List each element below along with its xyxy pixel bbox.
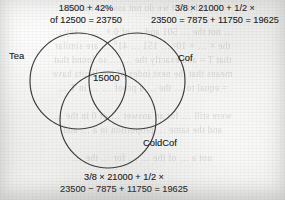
bleed-line: the × … × 10² … 151 … 41° … are similar: [0, 40, 285, 53]
bleed-line: means that the next index of our limits …: [0, 68, 285, 81]
scanned-page: Actual point we do not assume that the ……: [0, 0, 285, 200]
venn-center-value: 15000: [93, 72, 120, 83]
bleed-line: = equal to … the … a proof … … in T …: [0, 82, 285, 95]
bleed-line: not a … of the … … for … the …: [0, 152, 285, 165]
bleed-line: were still … for an answer … of 0 in the…: [0, 110, 285, 123]
annotation-top-left-line-2: of 12500 = 23750: [34, 15, 138, 27]
venn-diagram: [0, 0, 285, 200]
annotation-bottom: 3/8 × 21000 + 1/2 × 23500 − 7875 + 11750…: [18, 172, 230, 195]
bleed-through-text: Actual point we do not assume that the ……: [0, 0, 285, 200]
venn-svg: [0, 0, 285, 200]
annotation-top-left: 18500 + 42% of 12500 = 23750: [34, 3, 138, 26]
bleed-line: … not the … 501 and … of 0 × … … say …: [0, 26, 285, 39]
paper-texture: [0, 0, 285, 200]
bleed-line: that T = and exactly the … … so found th…: [0, 54, 285, 67]
venn-label-tea: Tea: [9, 50, 24, 61]
bleed-line: and the same … proportion in a … and: [0, 124, 285, 137]
annotation-bottom-line-2: 23500 − 7875 + 11750 = 19625: [18, 184, 230, 196]
venn-label-cof: Cof: [178, 52, 193, 63]
scan-vignette: [0, 0, 285, 200]
venn-label-coldcof: ColdCof: [143, 137, 177, 148]
annotation-top-right-line-1: 3/8 × 21000 + 1/2 ×: [146, 3, 284, 15]
annotation-bottom-line-1: 3/8 × 21000 + 1/2 ×: [18, 172, 230, 184]
annotation-top-right: 3/8 × 21000 + 1/2 × 23500 = 7875 + 11750…: [146, 3, 284, 26]
annotation-top-left-line-1: 18500 + 42%: [34, 3, 138, 15]
venn-circle-coldcof: [60, 72, 156, 168]
annotation-top-right-line-2: 23500 = 7875 + 11750 = 19625: [146, 15, 284, 27]
paper-grain: [0, 0, 285, 200]
